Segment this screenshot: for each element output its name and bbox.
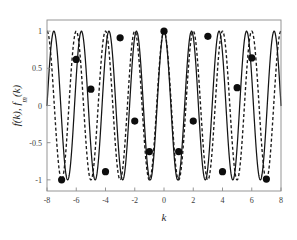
x-tick-label: 2 <box>191 196 195 205</box>
y-tick-label: 0 <box>38 102 42 111</box>
data-point-marker <box>204 33 211 40</box>
x-tick-label: 6 <box>250 196 254 205</box>
data-point-marker <box>263 176 270 183</box>
y-tick-label: 1 <box>38 27 42 36</box>
x-tick-label: 4 <box>221 196 225 205</box>
data-point-marker <box>87 86 94 93</box>
data-point-marker <box>190 118 197 125</box>
data-point-marker <box>234 84 241 91</box>
x-tick-label: -4 <box>102 196 109 205</box>
figure-container: -8-6-4-202468 -1-0.500.51 k f(k), fm(k) <box>0 0 297 240</box>
data-point-marker <box>102 168 109 175</box>
data-point-marker <box>131 118 138 125</box>
x-tick-label: -8 <box>44 196 51 205</box>
x-tick-label: 8 <box>279 196 283 205</box>
chart-canvas: -8-6-4-202468 -1-0.500.51 k f(k), fm(k) <box>0 0 297 240</box>
y-tick-label: 0.5 <box>32 64 42 73</box>
y-tick-label: -1 <box>35 176 42 185</box>
data-point-marker <box>160 28 167 35</box>
data-point-marker <box>58 176 65 183</box>
x-tick-label: -2 <box>131 196 138 205</box>
data-point-marker <box>175 148 182 155</box>
data-point-marker <box>117 34 124 41</box>
data-point-marker <box>73 56 80 63</box>
y-tick-label: -0.5 <box>29 139 42 148</box>
data-point-marker <box>248 54 255 61</box>
x-tick-label: 0 <box>162 196 166 205</box>
x-tick-label: -6 <box>73 196 80 205</box>
plot-area-background <box>47 20 281 191</box>
data-point-marker <box>219 168 226 175</box>
data-point-marker <box>146 148 153 155</box>
